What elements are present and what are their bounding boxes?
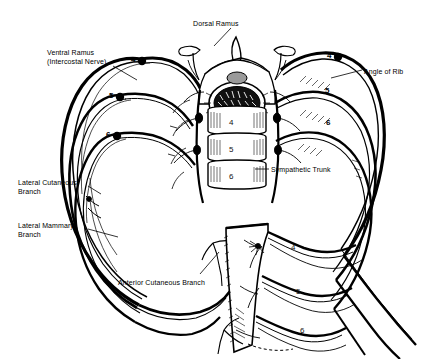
label-dorsal-ramus: Dorsal Ramus <box>193 20 239 29</box>
leader-ventral-ramus <box>113 66 137 80</box>
rib-number-right-4: 4 <box>327 51 331 60</box>
leader-angle-of-rib <box>331 70 362 78</box>
label-anterior-cutaneous-branch: Anterior Cutaneous Branch <box>118 279 205 288</box>
rib-number-right-6: 6 <box>326 118 330 127</box>
lateral-cutaneous-branches <box>86 196 101 218</box>
rib-number-left-5: 5 <box>109 91 113 100</box>
rib-arcs-right <box>275 53 416 359</box>
rib-number-left-4: 4 <box>131 55 135 64</box>
label-angle-of-rib: Angle of Rib <box>364 68 403 77</box>
vertebra-number-4: 4 <box>229 118 233 127</box>
label-lateral-mammary-branch: Lateral Mammary Branch <box>18 222 74 239</box>
inset-rib-number-6: 6 <box>300 326 304 335</box>
ganglion-dot-right-4 <box>334 53 342 61</box>
inset-rib-number-4: 4 <box>291 243 295 252</box>
ganglion-dot-left-6 <box>113 132 121 140</box>
leader-anterior-cutaneous <box>200 252 219 274</box>
leader-dorsal-ramus <box>214 28 231 46</box>
anatomical-figure: Dorsal Ramus Ventral Ramus (Intercostal … <box>0 0 424 359</box>
inset-rib-number-5: 5 <box>296 287 300 296</box>
label-sympathetic-trunk: Sympathetic Trunk <box>271 166 331 175</box>
vertebral-body-stack <box>208 106 266 189</box>
ganglion-dot-left-4 <box>138 57 146 65</box>
label-lateral-cutaneous-branch: Lateral Cutaneous Branch <box>18 179 77 196</box>
vertebra-number-6: 6 <box>229 172 233 181</box>
rib-number-right-5: 5 <box>325 86 329 95</box>
leader-lateral-cutaneous <box>88 186 101 194</box>
vertebra-number-5: 5 <box>229 145 233 154</box>
rib-number-left-6: 6 <box>106 130 110 139</box>
sternum-inset <box>218 224 362 354</box>
ganglion-dot-left-5 <box>116 93 124 101</box>
label-ventral-ramus: Ventral Ramus (Intercostal Nerve) <box>47 49 106 66</box>
